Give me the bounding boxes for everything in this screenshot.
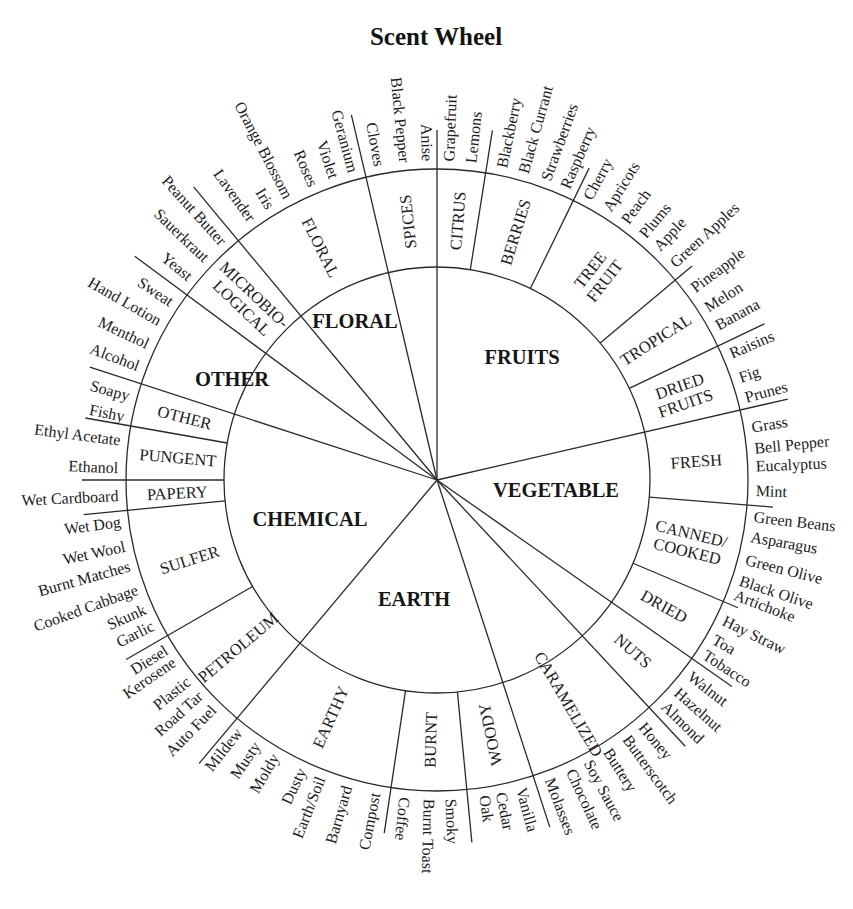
- subcategory-label: DRIED: [638, 586, 691, 627]
- subcategory-label: FRESH: [670, 450, 723, 473]
- subcategory-label-line: OTHER: [156, 401, 214, 433]
- subcategory-label: BURNT: [420, 712, 440, 768]
- descriptor-label: Grass: [750, 413, 789, 436]
- subcategory-label-line: SPICES: [395, 194, 420, 250]
- subcategory-label-line: PAPERY: [146, 482, 208, 504]
- subcategory-label-line: CARAMELIZED: [531, 648, 607, 760]
- category-label-chemical: CHEMICAL: [252, 508, 367, 530]
- scent-wheel-diagram: Scent Wheel FLORAL FRUITS VEGETABLE EART…: [0, 0, 853, 909]
- divider-line: [437, 399, 788, 480]
- descriptor-label: Smoky: [441, 798, 461, 844]
- subcategory-label: TROPICAL: [617, 310, 695, 370]
- subcategory-label-line: FRESH: [670, 450, 723, 473]
- subcategory-label: TREEFRUIT: [568, 245, 627, 305]
- descriptor-label: Roses: [291, 147, 321, 189]
- descriptor-label: Ethanol: [68, 457, 119, 476]
- subcategory-label: CITRUS: [446, 191, 470, 251]
- subcategory-label-line: PETROLEUM: [194, 608, 282, 686]
- subcategory-label: SULFER: [157, 541, 221, 578]
- subcategory-label-line: EARTHY: [308, 683, 352, 751]
- divider-line: [437, 480, 550, 827]
- category-label-floral: FLORAL: [312, 310, 397, 332]
- subcategory-label: PAPERY: [146, 482, 208, 504]
- descriptor-label: Raisins: [727, 327, 777, 361]
- divider-line: [649, 497, 773, 507]
- descriptor-label: Compost: [355, 791, 384, 852]
- subcategory-label: CARAMELIZED: [531, 648, 607, 760]
- descriptor-label: Mint: [756, 482, 788, 500]
- subcategory-label: OTHER: [156, 401, 214, 433]
- subcategory-label-line: FLORAL: [298, 214, 344, 280]
- category-label-earth: EARTH: [378, 588, 450, 610]
- subcategory-label: DRIEDFRUITS: [649, 367, 715, 421]
- descriptor-label: Barnyard: [322, 784, 356, 846]
- category-label-other: OTHER: [195, 368, 269, 390]
- page-title: Scent Wheel: [370, 23, 502, 50]
- descriptor-label: Grapefruit: [440, 94, 460, 162]
- descriptor-label: Coffee: [392, 797, 413, 842]
- descriptor-label: Cloves: [363, 121, 388, 168]
- subcategory-label-line: DRIED: [638, 586, 691, 627]
- divider-line: [437, 480, 732, 686]
- subcategory-label: SPICES: [395, 194, 420, 250]
- divider-line: [135, 256, 437, 480]
- descriptor-label: Anise: [418, 124, 436, 162]
- descriptor-label: Burnt Toast: [419, 799, 438, 875]
- subcategory-label-line: BURNT: [420, 712, 440, 768]
- subcategory-label-line: WOODY: [474, 702, 505, 768]
- category-label-fruits: FRUITS: [484, 346, 559, 368]
- subcategory-label-line: NUTS: [611, 629, 656, 672]
- subcategory-label: NUTS: [611, 629, 656, 672]
- subcategory-label-line: BERRIES: [496, 197, 535, 267]
- descriptor-label: Fig: [736, 363, 762, 387]
- descriptor-label: Wet Dog: [63, 513, 122, 538]
- subcategory-label: BERRIES: [496, 197, 535, 267]
- subcategory-label: PETROLEUM: [194, 608, 282, 686]
- descriptor-label: Black Pepper: [387, 76, 414, 164]
- descriptor-label: Iris: [252, 185, 278, 212]
- descriptor-label: Eucalyptus: [755, 454, 827, 475]
- subcategory-label-line: SULFER: [157, 541, 221, 578]
- subcategory-label: PUNGENT: [139, 445, 217, 471]
- subcategory-label-line: CITRUS: [446, 191, 470, 251]
- subcategory-label: MICROBIO-LOGICAL: [204, 257, 293, 345]
- subcategory-label: EARTHY: [308, 683, 352, 751]
- category-label-vegetable: VEGETABLE: [493, 479, 619, 501]
- subcategory-label-line: PUNGENT: [139, 445, 217, 471]
- descriptor-label: Lemons: [462, 111, 484, 164]
- category-labels: FLORAL FRUITS VEGETABLE EARTH CHEMICAL O…: [195, 310, 619, 610]
- subcategory-label: CANNED/COOKED: [649, 515, 729, 569]
- subcategory-label: WOODY: [474, 702, 505, 768]
- subcategory-label-line: TROPICAL: [617, 310, 695, 370]
- descriptor-label: Wet Cardboard: [21, 487, 119, 509]
- descriptor-label: Ethyl Acetate: [33, 421, 121, 450]
- subcategory-label: FLORAL: [298, 214, 344, 280]
- descriptor-label: Oak: [476, 794, 497, 823]
